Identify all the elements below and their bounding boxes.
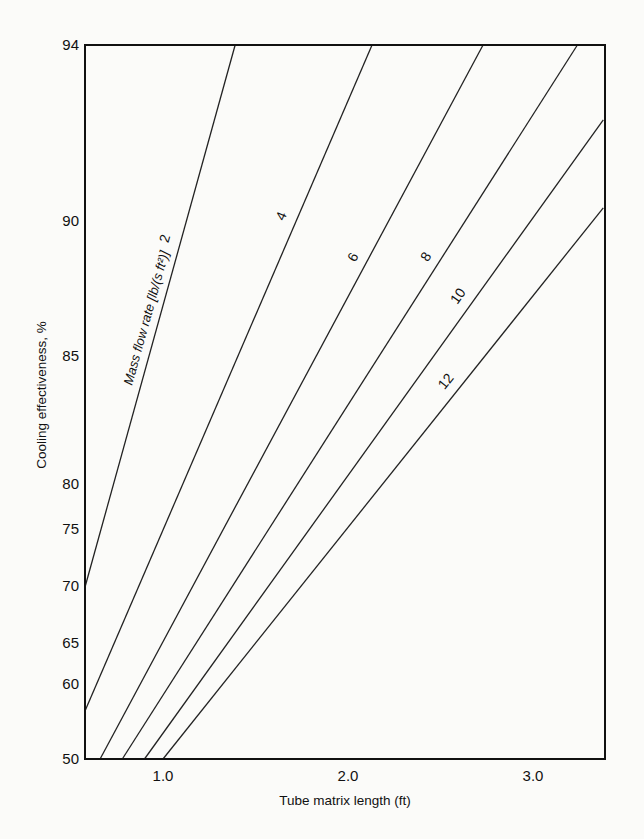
x-tick-label: 2.0 [338,767,359,784]
y-tick-label: 60 [62,675,79,692]
curve-10 [145,120,604,759]
y-tick-label: 85 [62,347,79,364]
curve-6 [100,45,483,759]
curve-12 [163,208,603,759]
y-tick-label: 75 [62,520,79,537]
curve-label-2: 2 [156,232,174,244]
y-tick-label: 65 [62,634,79,651]
y-tick-label: 70 [62,577,79,594]
x-axis-title: Tube matrix length (ft) [279,793,411,808]
x-axis-ticks: 1.02.03.0 [153,767,544,784]
x-tick-label: 1.0 [153,767,174,784]
curve-label-12: 12 [434,370,456,392]
y-tick-label: 90 [62,212,79,229]
curve-label-6: 6 [344,249,362,264]
y-axis-ticks: 506065707580859094 [62,36,79,767]
curve-label-8: 8 [417,249,435,264]
curve-8 [122,45,577,759]
curve-2 [85,45,235,586]
curve-label-10: 10 [447,285,469,307]
plot-frame [85,45,605,759]
y-axis-title: Cooling effectiveness, % [34,321,49,469]
y-tick-label: 50 [62,750,79,767]
curves-group [85,45,603,759]
curve-label-4: 4 [272,209,290,223]
y-tick-label: 80 [62,475,79,492]
x-tick-label: 3.0 [523,767,544,784]
chart: 506065707580859094 1.02.03.0 24681012 Ma… [0,0,644,839]
y-tick-label: 94 [62,36,79,53]
